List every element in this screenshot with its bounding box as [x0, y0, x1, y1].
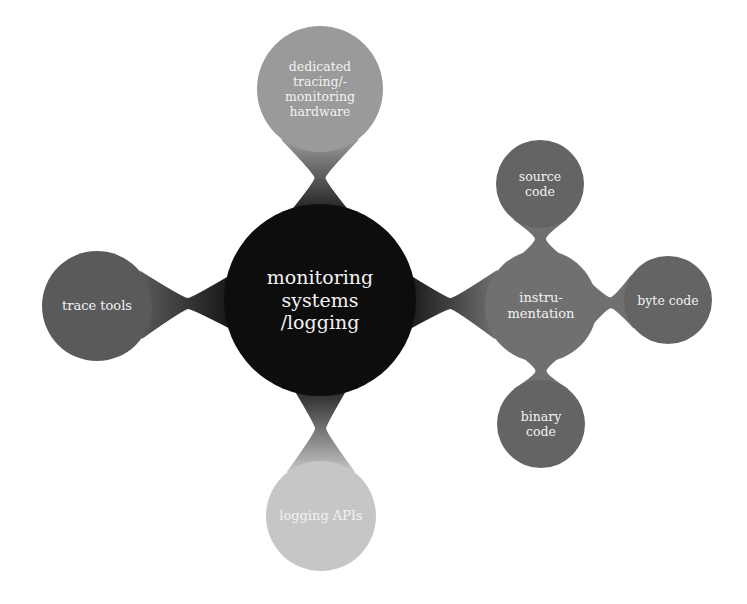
node-circle-root[interactable] [224, 204, 416, 396]
mindmap-canvas [0, 0, 747, 604]
node-circle-source-code[interactable] [496, 140, 584, 228]
node-circle-binary-code[interactable] [497, 380, 585, 468]
node-circle-instrumentation[interactable] [485, 250, 597, 362]
node-circle-dedicated[interactable] [257, 26, 383, 152]
node-circle-trace-tools[interactable] [42, 251, 152, 361]
node-circle-logging-apis[interactable] [266, 461, 376, 571]
node-circle-byte-code[interactable] [624, 256, 712, 344]
